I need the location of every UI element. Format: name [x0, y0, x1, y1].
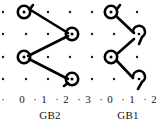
lattice-dot [47, 11, 49, 13]
panel-caption-gb1: GB1 [104, 108, 152, 122]
lattice-dot [91, 33, 93, 35]
gb2-node-top-left-tail [30, 5, 33, 9]
gb1-diagram [105, 5, 145, 89]
lattice-dot [113, 78, 115, 80]
lattice-dot [69, 56, 71, 58]
gb1-node-dot [138, 33, 141, 36]
lattice-dot [25, 78, 27, 80]
gb1-strand-1 [116, 16, 134, 33]
gb2-node-bottom-right-tail [64, 83, 68, 86]
gb2-strand-2 [28, 36, 68, 56]
lattice-dot [91, 56, 93, 58]
panel-caption-gb2: GB2 [26, 108, 74, 122]
lattice-dot [2, 11, 4, 13]
lattice-dot [2, 33, 4, 35]
gb2-node-dot [71, 78, 74, 81]
lattice-dot [136, 56, 138, 58]
gb2-diagram [18, 5, 78, 86]
lattice-dot [113, 33, 115, 35]
lattice-dot [69, 11, 71, 13]
lattice-dot [91, 78, 93, 80]
gb2-node-dot [23, 56, 26, 59]
lattice-dot [2, 78, 4, 80]
gb1-node-dot [110, 56, 113, 59]
gb1-node-dot [110, 11, 113, 14]
gb1-strand-3 [117, 61, 133, 78]
lattice-dots [2, 11, 138, 80]
lattice-dot [47, 78, 49, 80]
gb1-node-top-left-tail [117, 5, 120, 9]
gb2-node-dot [71, 33, 74, 36]
lattice-dot [47, 56, 49, 58]
gb2-strand-3 [29, 59, 68, 79]
gb1-strand-2 [117, 39, 134, 54]
figure-container: · 0 · 1 · 2 · 3 · 0 · 1 · 2 GB2 GB1 [0, 0, 161, 128]
lattice-dot [91, 11, 93, 13]
gb2-node-dot [23, 11, 26, 14]
lattice-dot [47, 33, 49, 35]
lattice-dot [25, 33, 27, 35]
lattice-dot [2, 56, 4, 58]
gb1-node-dot [138, 78, 141, 81]
lattice-dot [136, 11, 138, 13]
